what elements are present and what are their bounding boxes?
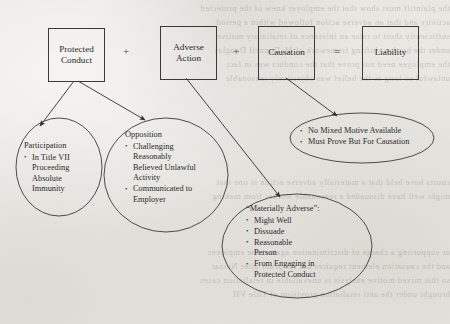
operator-plus-2: + — [229, 46, 243, 57]
box-causation[interactable]: Causation — [258, 26, 315, 80]
bubble-materially-adverse-text: “Materially Adverse”: Might Well Dissuad… — [246, 204, 350, 281]
bubble-materially-adverse-items: Might Well Dissuade Reasonable Person Fr… — [246, 216, 350, 281]
list-item: No Mixed Motive Available — [300, 126, 428, 137]
list-item: Dissuade — [246, 227, 350, 238]
scanned-page: the plaintiff must show that the employe… — [0, 0, 450, 324]
arrow-protected-to-opposition — [78, 81, 145, 120]
box-protected-conduct-label: ProtectedConduct — [59, 44, 94, 67]
bubble-opposition-items: Challenging Reasonably Believed Unlawful… — [125, 142, 223, 206]
list-item: Challenging Reasonably Believed Unlawful… — [125, 142, 223, 184]
bubble-materially-adverse-title: “Materially Adverse”: — [246, 204, 350, 215]
list-item: Reasonable Person — [246, 238, 350, 259]
bubble-opposition-title: Opposition — [125, 130, 223, 141]
arrow-causation-to-detail — [286, 78, 337, 116]
box-liability-label: Liability — [375, 47, 407, 58]
retaliation-diagram: ProtectedConduct + AdverseAction + Causa… — [0, 0, 450, 324]
list-item: Might Well — [246, 216, 350, 227]
bubble-opposition-text: Opposition Challenging Reasonably Believ… — [125, 130, 223, 206]
bubble-participation-text: Participation In Title VII Proceeding Ab… — [24, 141, 96, 195]
operator-plus-1: + — [119, 46, 133, 57]
bubble-causation-detail-text: No Mixed Motive Available Must Prove But… — [300, 126, 428, 148]
bubble-participation-title: Participation — [24, 141, 96, 152]
box-adverse-action[interactable]: AdverseAction — [160, 26, 217, 80]
box-causation-label: Causation — [268, 47, 305, 58]
list-item: Communicated to Employer — [125, 184, 223, 205]
box-protected-conduct[interactable]: ProtectedConduct — [48, 28, 105, 82]
box-adverse-action-label: AdverseAction — [173, 42, 204, 65]
list-item: In Title VII Proceeding Absolute Immunit… — [24, 153, 96, 195]
bubble-causation-detail-items: No Mixed Motive Available Must Prove But… — [300, 126, 428, 148]
list-item: Must Prove But For Causation — [300, 137, 428, 148]
list-item: From Engaging in Protected Conduct — [246, 259, 350, 280]
operator-equals: = — [330, 46, 344, 57]
bubble-participation-items: In Title VII Proceeding Absolute Immunit… — [24, 153, 96, 195]
box-liability[interactable]: Liability — [362, 26, 419, 80]
